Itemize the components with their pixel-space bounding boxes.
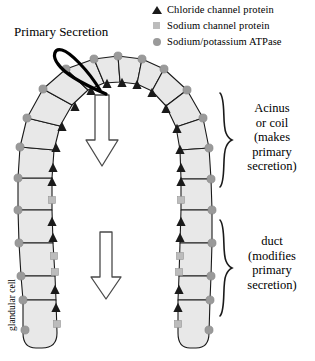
acinus-label-line: Acinus: [232, 101, 312, 116]
glandular-cell-label: glandular cell: [7, 274, 17, 336]
acinus-label-line: (makes: [232, 130, 312, 145]
acinus-cell: [18, 178, 52, 210]
duct-flow-arrow: [91, 232, 121, 299]
duct-cell: [180, 210, 212, 243]
duct-cell: [18, 210, 53, 243]
gland-diagram: [0, 0, 315, 361]
duct-cell: [19, 243, 55, 276]
acinus-label-line: primary: [232, 145, 312, 160]
legend-label-chloride: Chloride channel protein: [167, 4, 274, 16]
duct-brace: [220, 220, 232, 316]
figure-canvas: Chloride channel protein Sodium channel …: [0, 0, 315, 361]
duct-cell: [178, 276, 211, 300]
triangle-marker-icon: [150, 3, 163, 16]
acinus-cell: [18, 147, 54, 178]
acinus-cell-wall: [18, 56, 212, 210]
acinus-label-line: or coil: [232, 116, 312, 131]
duct-cell: [179, 243, 212, 276]
duct-label-line: secretion): [232, 278, 312, 293]
duct-region-label: duct (modifies primary secretion): [232, 234, 312, 292]
legend-item-sodium: Sodium channel protein: [150, 18, 315, 33]
duct-label-line: (modifies: [232, 249, 312, 264]
circle-marker-icon: [150, 35, 163, 48]
duct-label-line: primary: [232, 263, 312, 278]
acinus-cell: [181, 179, 212, 210]
legend-label-atpase: Sodium/potassium ATPase: [167, 36, 282, 48]
acinus-region-label: Acinus or coil (makes primary secretion): [232, 101, 312, 174]
acinus-label-line: secretion): [232, 159, 312, 174]
duct-cell: [21, 276, 56, 300]
acinus-brace: [220, 93, 232, 187]
legend-label-sodium: Sodium channel protein: [167, 20, 270, 32]
duct-label-line: duct: [232, 234, 312, 249]
primary-secretion-title: Primary Secretion: [14, 24, 108, 40]
primary-secretion-flow-arrow: [86, 95, 118, 166]
square-marker-icon: [150, 19, 163, 32]
apical-membrane-markers: [47, 78, 185, 328]
duct-cell-rounded: [23, 300, 57, 348]
legend-item-chloride: Chloride channel protein: [150, 2, 315, 17]
legend: Chloride channel protein Sodium channel …: [150, 2, 315, 50]
duct-cell-rounded: [178, 300, 210, 348]
legend-item-atpase: Sodium/potassium ATPase: [150, 34, 315, 49]
acinus-cell: [180, 148, 211, 179]
